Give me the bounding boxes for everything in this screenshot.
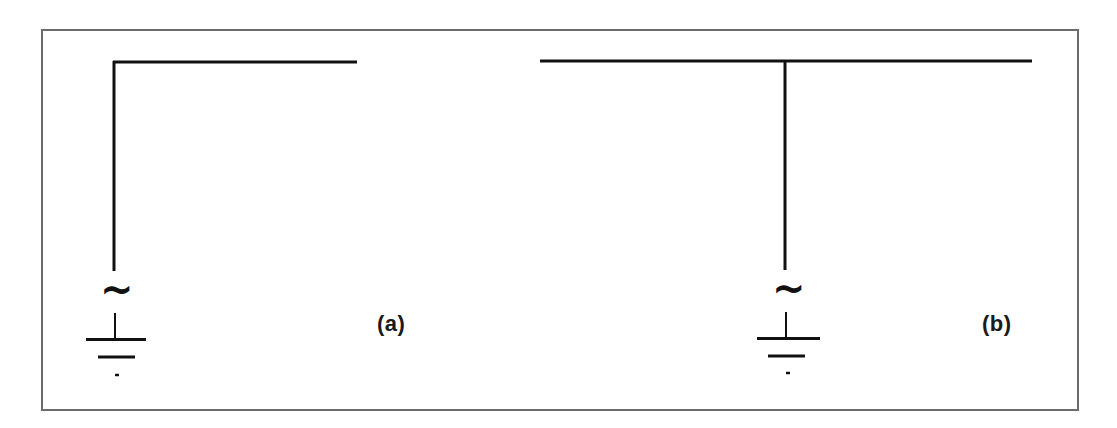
panel-b-label: (b)	[982, 313, 1012, 335]
panel-a-antenna	[113, 61, 357, 271]
panel-b-antenna	[540, 61, 1032, 270]
antenna-diagram	[0, 0, 1117, 428]
panel-a-ac-source-icon: ~	[100, 269, 134, 309]
panel-a-label: (a)	[377, 313, 405, 335]
panel-b-ground-icon	[757, 312, 820, 373]
panel-a-ground-icon	[86, 313, 146, 375]
panel-b-ac-source-icon: ~	[772, 268, 806, 308]
